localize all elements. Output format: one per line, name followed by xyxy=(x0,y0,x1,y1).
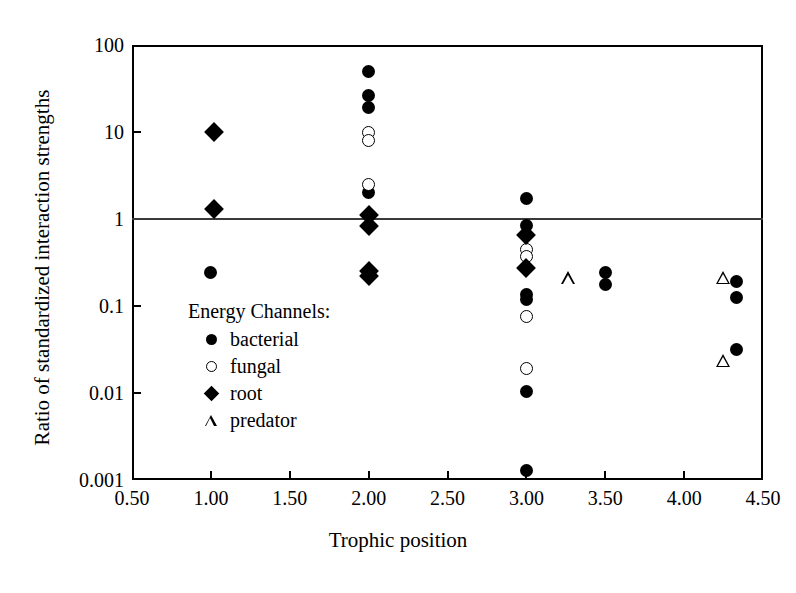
filled-diamond-icon xyxy=(198,388,224,399)
reference-line xyxy=(132,218,763,220)
data-point-bacterial xyxy=(599,278,612,291)
x-axis-tick-label: 3.00 xyxy=(486,488,566,508)
x-axis-tick-label: 1.50 xyxy=(250,488,330,508)
y-axis-tick-label: 0.1 xyxy=(4,296,124,316)
x-axis-tick-label: 4.00 xyxy=(644,488,724,508)
data-point-bacterial xyxy=(599,266,612,279)
data-point-predator xyxy=(561,271,575,284)
data-point-fungal xyxy=(362,178,375,191)
legend-item-root: root xyxy=(188,380,330,407)
data-point-bacterial xyxy=(520,192,533,205)
data-point-fungal xyxy=(520,310,533,323)
data-point-bacterial xyxy=(730,343,743,356)
x-axis-tick xyxy=(604,471,606,480)
data-point-bacterial xyxy=(520,385,533,398)
legend-item-predator: predator xyxy=(188,407,330,434)
y-axis-tick-label: 0.01 xyxy=(4,383,124,403)
data-point-bacterial xyxy=(362,101,375,114)
x-axis-tick-label: 3.50 xyxy=(565,488,645,508)
data-point-fungal xyxy=(362,134,375,147)
x-axis-tick-label: 0.50 xyxy=(92,488,172,508)
data-point-root xyxy=(516,225,536,245)
y-axis-tick-label: 10 xyxy=(4,122,124,142)
x-axis-tick-label: 1.00 xyxy=(171,488,251,508)
legend-item-bacterial: bacterial xyxy=(188,326,330,353)
data-point-bacterial xyxy=(730,275,743,288)
legend-item-fungal: fungal xyxy=(188,353,330,380)
legend-item-label: predator xyxy=(230,407,297,434)
x-axis-tick xyxy=(368,471,370,480)
legend: Energy Channels: bacterial fungal root p… xyxy=(188,298,330,434)
legend-item-label: fungal xyxy=(230,353,281,380)
data-point-root xyxy=(204,199,224,219)
data-point-bacterial xyxy=(204,266,217,279)
legend-item-label: root xyxy=(230,380,262,407)
y-axis-tick-label: 100 xyxy=(4,35,124,55)
x-axis-tick xyxy=(447,471,449,480)
data-point-bacterial xyxy=(520,464,533,477)
y-axis-tick-label: 1 xyxy=(4,209,124,229)
y-axis-tick xyxy=(132,392,141,394)
x-axis-tick-label: 2.50 xyxy=(408,488,488,508)
y-axis-tick-label: 0.001 xyxy=(4,470,124,490)
scatter-plot-figure: Ratio of standardized interaction streng… xyxy=(0,0,796,593)
data-point-bacterial xyxy=(520,293,533,306)
x-axis-tick xyxy=(289,471,291,480)
y-axis-tick xyxy=(132,131,141,133)
x-axis-tick xyxy=(210,471,212,480)
data-point-root xyxy=(204,122,224,142)
legend-item-label: bacterial xyxy=(230,326,299,353)
data-point-predator xyxy=(716,271,730,284)
plot-overlay: 1001010.10.010.0010.501.001.502.002.503.… xyxy=(0,0,796,593)
data-point-bacterial xyxy=(730,291,743,304)
data-point-root xyxy=(516,259,536,279)
legend-title: Energy Channels: xyxy=(188,298,330,325)
x-axis-tick xyxy=(683,471,685,480)
open-circle-icon xyxy=(198,361,224,372)
filled-circle-icon xyxy=(198,334,224,345)
data-point-predator xyxy=(716,354,730,367)
x-axis-tick-label: 2.00 xyxy=(329,488,409,508)
y-axis-tick xyxy=(132,305,141,307)
data-point-fungal xyxy=(520,362,533,375)
open-triangle-icon xyxy=(198,415,224,426)
x-axis-tick-label: 4.50 xyxy=(723,488,796,508)
data-point-bacterial xyxy=(362,65,375,78)
